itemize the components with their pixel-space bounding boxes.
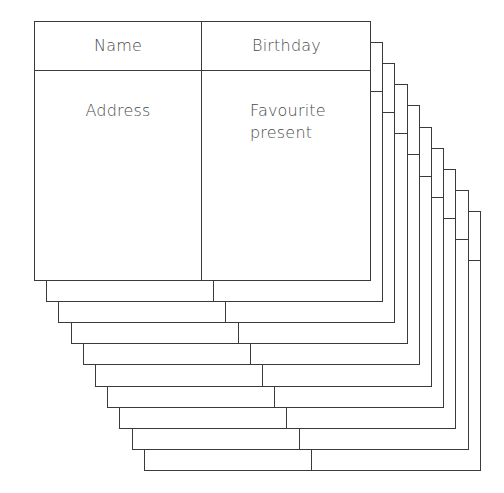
- header-divider: [35, 70, 370, 71]
- front-record-card: Name Birthday Address Favourite present: [34, 21, 371, 281]
- field-name: Name: [35, 35, 201, 57]
- field-birthday: Birthday: [202, 35, 371, 57]
- field-favourite-present: Favourite present: [202, 100, 371, 144]
- field-address: Address: [35, 100, 201, 122]
- column-divider: [201, 22, 202, 280]
